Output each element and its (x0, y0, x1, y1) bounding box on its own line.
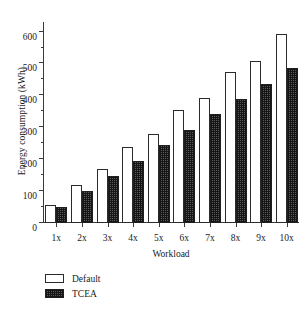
plot-area: 0100200300400500600 1x2x3x4x5x6x7x8x9x10… (43, 22, 299, 223)
x-tick (159, 223, 160, 227)
x-tick (210, 223, 211, 227)
bar-default (250, 61, 261, 223)
bar-default (71, 185, 82, 223)
x-tick (133, 223, 134, 227)
x-tick (236, 223, 237, 227)
bar-group: 6x (173, 22, 195, 223)
bar-default (148, 134, 159, 223)
x-tick (82, 223, 83, 227)
x-tick-label: 1x (52, 233, 62, 243)
bar-default (225, 72, 236, 223)
x-tick-label: 2x (77, 233, 87, 243)
x-tick-label: 3x (103, 233, 113, 243)
bar-group: 4x (122, 22, 144, 223)
legend-label-tcea: TCEA (72, 289, 97, 299)
bar-group: 8x (225, 22, 247, 223)
energy-consumption-bar-chart: Energy consumption (kWh) 010020030040050… (0, 0, 303, 311)
x-tick-label: 8x (231, 233, 241, 243)
bar-group: 5x (148, 22, 170, 223)
bar-groups: 1x2x3x4x5x6x7x8x9x10x (43, 22, 299, 223)
legend-swatch-default (45, 274, 64, 283)
legend-label-default: Default (72, 274, 101, 284)
chart-legend: Default TCEA (45, 271, 101, 301)
bar-tcea (133, 161, 144, 223)
bar-default (173, 110, 184, 223)
bar-group: 2x (71, 22, 93, 223)
bar-tcea (287, 68, 298, 223)
bar-tcea (261, 84, 272, 223)
y-axis-title: Energy consumption (kWh) (17, 31, 27, 211)
x-tick-label: 5x (154, 233, 164, 243)
bar-group: 1x (45, 22, 67, 223)
x-tick (287, 223, 288, 227)
bar-default (199, 98, 210, 223)
bar-tcea (108, 176, 119, 223)
bar-tcea (56, 207, 67, 223)
bar-tcea (82, 191, 93, 223)
legend-item-default: Default (45, 271, 101, 286)
x-tick (184, 223, 185, 227)
x-tick (108, 223, 109, 227)
x-tick-label: 7x (205, 233, 215, 243)
bar-default (122, 147, 133, 223)
x-tick-label: 4x (128, 233, 138, 243)
bar-tcea (236, 99, 247, 223)
bar-group: 7x (199, 22, 221, 223)
legend-swatch-tcea (45, 289, 64, 298)
legend-item-tcea: TCEA (45, 286, 101, 301)
x-tick (56, 223, 57, 227)
x-tick-label: 10x (280, 233, 294, 243)
bar-tcea (210, 114, 221, 223)
bar-default (97, 169, 108, 223)
bar-tcea (184, 130, 195, 223)
bar-group: 9x (250, 22, 272, 223)
x-tick-label: 6x (180, 233, 190, 243)
bar-group: 10x (276, 22, 298, 223)
bar-default (276, 34, 287, 223)
bar-default (45, 205, 56, 223)
x-tick (261, 223, 262, 227)
bar-group: 3x (97, 22, 119, 223)
x-tick-label: 9x (256, 233, 266, 243)
bar-tcea (159, 145, 170, 223)
x-axis-title: Workload (43, 249, 299, 259)
